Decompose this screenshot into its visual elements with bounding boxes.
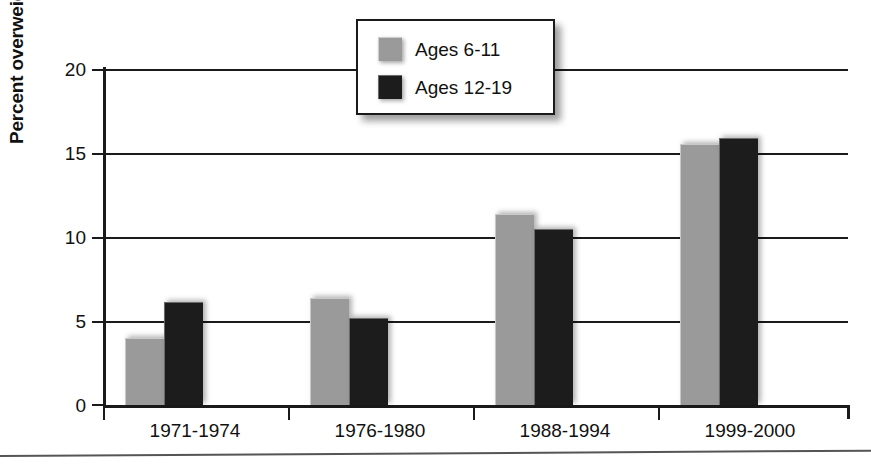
chart-legend: Ages 6-11 Ages 12-19 [356,19,555,115]
y-axis-title: Percent overweight [6,0,28,144]
y-tick-20 [92,69,104,71]
x-axis-label-1988-1994: 1988-1994 [475,421,655,440]
x-tick-1 [288,405,290,420]
x-axis-line [103,405,850,408]
bar-1971-1974-ages-12-19[interactable] [164,302,203,405]
chart-figure: Percent overweight 20 15 10 5 0 [0,0,871,473]
plot-area: 1971-1974 1976-1980 1988-1994 1999-2000 [103,69,848,405]
x-axis-label-1999-2000: 1999-2000 [660,421,840,440]
bottom-divider [0,450,871,457]
y-tick-5 [92,321,104,323]
y-tick-label-5: 5 [46,312,86,331]
bar-1988-1994-ages-6-11[interactable] [495,214,534,405]
y-tick-10 [92,237,104,239]
bar-1999-2000-ages-12-19[interactable] [719,138,758,405]
bar-1971-1974-ages-6-11[interactable] [125,338,164,405]
legend-item-ages-6-11[interactable]: Ages 6-11 [378,30,553,68]
bar-1976-1980-ages-6-11[interactable] [310,298,349,405]
legend-item-ages-12-19[interactable]: Ages 12-19 [378,68,553,106]
y-tick-15 [92,153,104,155]
y-axis-tick-labels: 20 15 10 5 0 [38,69,86,405]
bar-1988-1994-ages-12-19[interactable] [534,229,573,405]
legend-swatch-icon-gray [378,37,402,61]
legend-label-ages-6-11: Ages 6-11 [415,40,500,59]
y-tick-label-0: 0 [46,396,86,415]
y-tick-label-20: 20 [46,60,86,79]
bar-1976-1980-ages-12-19[interactable] [349,318,388,405]
bar-1999-2000-ages-6-11[interactable] [680,144,719,405]
y-tick-label-10: 10 [46,228,86,247]
x-tick-2 [473,405,475,420]
y-tick-label-15: 15 [46,144,86,163]
x-axis-label-1971-1974: 1971-1974 [105,421,285,440]
x-tick-0 [103,405,105,420]
x-axis-label-1976-1980: 1976-1980 [290,421,470,440]
x-tick-3 [658,405,660,420]
legend-swatch-icon-black [378,75,402,99]
legend-label-ages-12-19: Ages 12-19 [415,78,512,97]
x-axis-right-cap [847,405,850,419]
